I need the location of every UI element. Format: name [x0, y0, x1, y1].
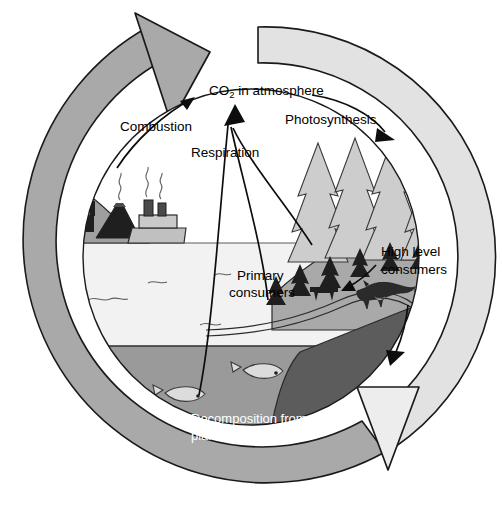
primary-consumers-label-line1: Primary: [237, 268, 284, 283]
high-level-consumers-label-line1: High level: [381, 244, 440, 259]
primary-consumers-label-line2: consumers: [229, 285, 295, 300]
decomposition-label-line2: plants and animals: [191, 428, 300, 443]
combustion-label: Combustion: [120, 119, 192, 134]
decomposition-label-line1: Decomposition from dead: [191, 411, 339, 426]
co2-label-text: CO: [209, 83, 229, 98]
photosynthesis-label: Photosynthesis: [285, 112, 377, 127]
carbon-cycle-diagram: CO2 in atmosphere Combustion Respiration…: [0, 0, 502, 514]
carbon-cycle-figure: CO2 in atmosphere Combustion Respiration…: [0, 0, 502, 514]
co2-label: CO2 in atmosphere: [209, 83, 324, 100]
co2-label-suffix: in atmosphere: [235, 83, 324, 98]
high-level-consumers-label-line2: consumers: [381, 262, 447, 277]
respiration-label: Respiration: [191, 145, 259, 160]
